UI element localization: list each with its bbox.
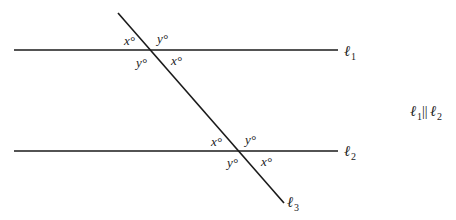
parallel-relation: ℓ 1 || ℓ 2: [410, 103, 442, 122]
svg-text:2: 2: [351, 151, 356, 162]
angle-top-lower-left: y°: [134, 55, 147, 70]
svg-text:1: 1: [351, 51, 356, 62]
angle-bottom-lower-right: x°: [260, 154, 272, 169]
svg-text:||: ||: [422, 104, 428, 119]
label-l1: ℓ 1: [344, 43, 356, 62]
diagram-canvas: x° y° y° x° x° y° y° x° ℓ 1 ℓ 2 ℓ 3 ℓ 1 …: [0, 0, 456, 220]
angle-top-upper-left: x°: [123, 33, 135, 48]
svg-text:2: 2: [437, 111, 442, 122]
svg-text:3: 3: [294, 202, 299, 213]
svg-text:ℓ: ℓ: [344, 43, 350, 59]
svg-text:ℓ: ℓ: [344, 143, 350, 159]
line-l3-transversal: [118, 13, 284, 203]
angle-bottom-lower-left: y°: [225, 155, 238, 170]
angle-bottom-upper-left: x°: [210, 134, 222, 149]
angle-bottom-upper-right: y°: [243, 132, 256, 147]
label-l3: ℓ 3: [287, 194, 299, 213]
label-l2: ℓ 2: [344, 143, 356, 162]
angle-top-lower-right: x°: [170, 53, 182, 68]
svg-text:ℓ: ℓ: [410, 103, 416, 119]
svg-text:ℓ: ℓ: [287, 194, 293, 210]
angle-top-upper-right: y°: [155, 31, 168, 46]
svg-text:ℓ: ℓ: [430, 103, 436, 119]
